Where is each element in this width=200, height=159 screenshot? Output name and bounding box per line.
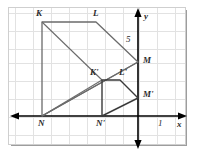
label-L: L bbox=[93, 9, 99, 18]
label-K: K bbox=[36, 9, 42, 18]
label-K-prime: K' bbox=[90, 68, 99, 77]
label-N: N bbox=[38, 119, 45, 128]
figure-drawing bbox=[0, 0, 200, 159]
label-L-prime: L' bbox=[119, 68, 127, 77]
coordinate-geometry-figure: K L M N K' L' M' N' 5 1 y x bbox=[0, 0, 200, 159]
y-axis bbox=[134, 8, 141, 149]
label-y-axis: y bbox=[144, 12, 148, 21]
label-y-tick-5: 5 bbox=[126, 35, 131, 44]
label-N-prime: N' bbox=[96, 119, 105, 128]
shape-K-prime-L-prime-M-prime-N-prime bbox=[102, 80, 138, 116]
label-M: M bbox=[143, 56, 151, 65]
label-M-prime: M' bbox=[143, 90, 154, 99]
label-x-tick-1: 1 bbox=[158, 119, 163, 128]
label-x-axis: x bbox=[177, 120, 182, 129]
